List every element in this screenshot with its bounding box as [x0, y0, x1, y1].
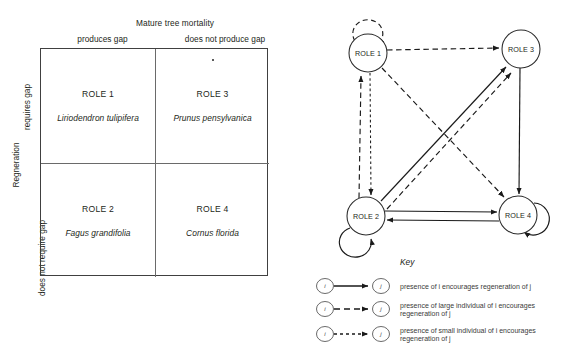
- network-node-label: ROLE 4: [505, 211, 531, 220]
- key-entry-text: presence of large individual of i encour…: [400, 302, 536, 310]
- edge-role2-to-role3-solid: [381, 67, 506, 201]
- key-entry-solid: i j presence of i encourages regeneratio…: [317, 279, 532, 294]
- edge-role1-to-role3: [387, 48, 499, 50]
- matrix-grid: ROLE 1 Liriodendron tulipifera ROLE 3 Pr…: [40, 48, 268, 276]
- network-key-legend: Key i j presence of i encourages regener…: [317, 257, 537, 343]
- cell-role-name: ROLE 1: [82, 89, 114, 99]
- edge-role1-to-role2: [370, 73, 371, 195]
- network-node-role1[interactable]: ROLE 1: [349, 34, 387, 72]
- network-node-role3[interactable]: ROLE 3: [502, 30, 540, 68]
- matrix-column-axis-title: Mature tree mortality: [60, 18, 290, 28]
- matrix-row-axis-title: Regneration: [11, 125, 21, 205]
- edge-role2-to-role4: [385, 211, 497, 212]
- matrix-cell-role2: ROLE 2 Fagus grandifolia: [41, 163, 155, 277]
- key-entry-small-dashed: i j presence of small individual of i en…: [317, 327, 537, 344]
- matrix-column-header-no-gap: does not produce gap: [160, 34, 290, 44]
- network-node-label: ROLE 3: [508, 45, 534, 54]
- key-entry-text: presence of i encourages regeneration of…: [400, 283, 532, 291]
- cell-role-name: ROLE 2: [82, 204, 114, 214]
- cell-marker-dot: [212, 59, 214, 61]
- network-diagram: ROLE 1 ROLE 3 ROLE 2 ROLE 4 Key i: [292, 0, 573, 345]
- matrix-cell-role1: ROLE 1 Liriodendron tulipifera: [41, 49, 155, 163]
- edge-role3-to-role4: [519, 68, 520, 194]
- network-node-label: ROLE 2: [353, 212, 379, 221]
- key-entry-text-line2: regeneration of j: [400, 310, 451, 318]
- key-entry-text-line2: regeneration of j: [400, 335, 451, 343]
- network-node-role4[interactable]: ROLE 4: [499, 196, 537, 234]
- edge-role2-to-role1: [359, 76, 361, 198]
- cell-species-name: Fagus grandifolia: [65, 228, 130, 238]
- cell-species-name: Prunus pensylvanica: [173, 113, 251, 123]
- edge-role2-to-role3-dashed: [387, 73, 511, 209]
- cell-species-name: Liriodendron tulipifera: [57, 113, 139, 123]
- edge-role4-to-role2: [387, 220, 499, 221]
- matrix-column-header-produces-gap: produces gap: [40, 34, 165, 44]
- edge-role1-to-role4: [382, 68, 504, 197]
- network-nodes: ROLE 1 ROLE 3 ROLE 2 ROLE 4: [347, 30, 540, 235]
- network-node-role2[interactable]: ROLE 2: [347, 197, 385, 235]
- role-matrix-panel: Mature tree mortality produces gap does …: [0, 0, 292, 345]
- cell-species-name: Cornus florida: [186, 228, 239, 238]
- matrix-cell-role4: ROLE 4 Cornus florida: [155, 163, 269, 277]
- key-entry-text: presence of small individual of i encour…: [400, 327, 536, 335]
- cell-role-name: ROLE 3: [197, 89, 229, 99]
- network-node-label: ROLE 1: [355, 49, 381, 58]
- key-title: Key: [400, 257, 415, 267]
- key-entry-large-dashed: i j presence of large individual of i en…: [317, 302, 536, 319]
- matrix-cell-role3: ROLE 3 Prunus pensylvanica: [155, 49, 269, 163]
- role-network-panel: ROLE 1 ROLE 3 ROLE 2 ROLE 4 Key i: [292, 0, 573, 345]
- matrix-row-header-requires-gap: requires gap: [22, 67, 32, 147]
- cell-role-name: ROLE 4: [197, 204, 229, 214]
